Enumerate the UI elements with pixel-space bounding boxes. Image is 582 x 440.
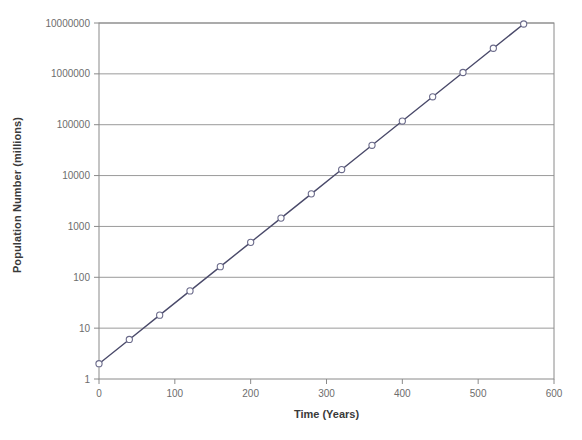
data-point-marker: [521, 21, 527, 27]
data-point-marker: [278, 215, 284, 221]
x-tick-label: 500: [470, 388, 487, 399]
data-point-marker: [217, 264, 223, 270]
data-point-marker: [308, 191, 314, 197]
x-tick-label: 0: [96, 388, 102, 399]
x-tick-label: 400: [394, 388, 411, 399]
y-tick-label-group: 110100100010000100000100000010000000: [46, 18, 91, 385]
y-tick-label: 10000: [62, 170, 90, 181]
data-point-markers: [96, 21, 527, 367]
data-point-marker: [248, 239, 254, 245]
data-point-marker: [430, 94, 436, 100]
x-tick-label-group: 0100200300400500600: [96, 388, 563, 399]
y-tick-label: 10: [79, 323, 91, 334]
data-point-marker: [157, 312, 163, 318]
x-axis-title: Time (Years): [99, 408, 554, 420]
y-tick-label: 100000: [57, 119, 91, 130]
y-tick-label: 100: [73, 272, 90, 283]
y-tick-label: 1: [84, 374, 90, 385]
data-point-marker: [187, 288, 193, 294]
gridline-group: [99, 23, 554, 328]
y-tick-label: 10000000: [46, 18, 91, 29]
chart-plot-area: 110100100010000100000100000010000000 010…: [0, 0, 582, 440]
data-point-marker: [339, 166, 345, 172]
x-tick-mark-group: [99, 379, 554, 384]
data-point-marker: [460, 69, 466, 75]
x-tick-label: 300: [318, 388, 335, 399]
data-point-marker: [369, 142, 375, 148]
plot-frame: [99, 23, 554, 379]
data-point-marker: [399, 118, 405, 124]
data-point-marker: [96, 361, 102, 367]
x-tick-label: 200: [242, 388, 259, 399]
x-tick-label: 100: [166, 388, 183, 399]
x-tick-label: 600: [546, 388, 563, 399]
y-tick-label: 1000000: [51, 68, 90, 79]
data-point-marker: [126, 336, 132, 342]
y-tick-label: 1000: [68, 221, 91, 232]
plot-border: [99, 23, 554, 379]
data-point-marker: [490, 45, 496, 51]
population-growth-chart: Population Number (millions) 11010010001…: [0, 0, 582, 440]
y-tick-mark-group: [94, 23, 99, 379]
